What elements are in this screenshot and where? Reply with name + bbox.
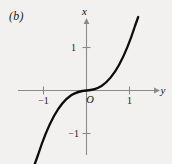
tick-label-horizontal-pos-one: 1 [127, 95, 132, 106]
tick-label-vertical-neg-one: −1 [68, 128, 79, 139]
vertical-axis-name-label: x [81, 5, 87, 17]
tick-label-vertical-pos-one: 1 [71, 42, 76, 53]
figure-panel: (b) x y O −1 1 1 −1 [0, 0, 172, 164]
horizontal-axis-arrow [154, 88, 160, 94]
origin-label: O [86, 94, 94, 105]
horizontal-axis-name-label: y [160, 84, 166, 96]
tick-label-horizontal-neg-one: −1 [38, 95, 49, 106]
cubic-curve-plot: x y O −1 1 1 −1 [0, 0, 172, 164]
vertical-axis-arrow [84, 18, 90, 24]
